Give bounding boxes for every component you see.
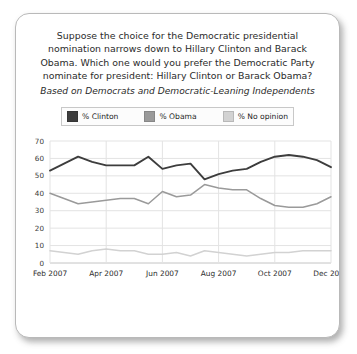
x-axis-labels: Feb 2007Apr 2007Jun 2007Aug 2007Oct 2007… <box>33 269 339 278</box>
title-line-2: nomination narrows down to Hillary Clint… <box>29 42 326 55</box>
svg-text:Feb 2007: Feb 2007 <box>33 269 68 278</box>
chart-legend: % Clinton % Obama % No opinion <box>61 107 294 126</box>
svg-text:0: 0 <box>39 259 44 268</box>
svg-text:Jun 2007: Jun 2007 <box>145 269 179 278</box>
legend-item-no-opinion[interactable]: % No opinion <box>223 111 288 122</box>
title-line-3: Obama. Which one would you prefer the De… <box>29 56 326 69</box>
legend-swatch-clinton <box>67 111 78 122</box>
chart-plot-area: 010203040506070 Feb 2007Apr 2007Jun 2007… <box>16 135 339 285</box>
svg-text:Aug 2007: Aug 2007 <box>201 269 237 278</box>
svg-text:20: 20 <box>35 224 45 233</box>
series-line-noopinion <box>50 249 331 256</box>
svg-text:50: 50 <box>35 172 45 181</box>
legend-label-clinton: % Clinton <box>82 112 118 121</box>
title-line-1: Suppose the choice for the Democratic pr… <box>29 29 326 42</box>
y-axis-labels: 010203040506070 <box>35 137 45 268</box>
svg-text:Apr 2007: Apr 2007 <box>89 269 123 278</box>
chart-title: Suppose the choice for the Democratic pr… <box>29 29 326 82</box>
svg-text:60: 60 <box>35 154 45 163</box>
legend-swatch-no-opinion <box>223 111 234 122</box>
title-line-4: nominate for president: Hillary Clinton … <box>29 69 326 82</box>
legend-swatch-obama <box>144 111 155 122</box>
data-series <box>50 155 331 256</box>
chart-subtitle: Based on Democrats and Democratic-Leanin… <box>26 86 329 96</box>
series-line-obama <box>50 185 331 208</box>
legend-item-clinton[interactable]: % Clinton <box>67 111 118 122</box>
svg-text:Oct 2007: Oct 2007 <box>258 269 292 278</box>
legend-label-no-opinion: % No opinion <box>238 112 288 121</box>
svg-text:40: 40 <box>35 189 45 198</box>
svg-text:Dec 2007: Dec 2007 <box>313 269 339 278</box>
poll-chart-card: Suppose the choice for the Democratic pr… <box>15 13 340 338</box>
svg-text:10: 10 <box>35 241 45 250</box>
svg-text:70: 70 <box>35 137 45 146</box>
line-chart-svg: 010203040506070 Feb 2007Apr 2007Jun 2007… <box>16 135 339 285</box>
legend-item-obama[interactable]: % Obama <box>144 111 196 122</box>
legend-label-obama: % Obama <box>159 112 196 121</box>
svg-text:30: 30 <box>35 207 45 216</box>
